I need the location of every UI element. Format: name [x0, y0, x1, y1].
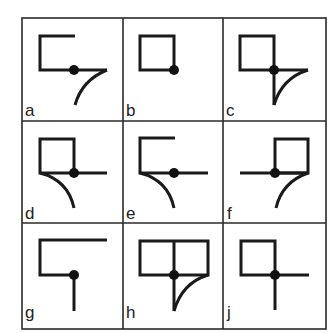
cell-d[interactable]: d [25, 139, 107, 223]
dot-icon [270, 168, 280, 178]
curve-shape [75, 70, 107, 105]
dot-icon [270, 270, 280, 280]
cell-b[interactable]: b [126, 36, 179, 120]
dot-icon [169, 168, 179, 178]
square-shape [241, 241, 275, 275]
dot-icon [269, 65, 279, 75]
cell-label: j [226, 303, 231, 322]
cell-label: g [25, 303, 34, 322]
curve-shape [276, 173, 308, 208]
cell-label: b [126, 101, 135, 120]
dot-icon [169, 65, 179, 75]
cell-c[interactable]: c [226, 36, 308, 120]
cell-a[interactable]: a [25, 36, 107, 120]
bracket-shape [40, 36, 107, 70]
cell-label: d [25, 204, 34, 223]
dot-icon [69, 270, 79, 280]
cell-label: e [126, 204, 135, 223]
cell-j[interactable]: j [226, 241, 309, 322]
cell-label: a [25, 101, 35, 120]
dot-icon [69, 65, 79, 75]
dot-icon [69, 168, 79, 178]
cell-label: h [126, 303, 135, 322]
cell-label: c [226, 101, 235, 120]
square-shape [275, 139, 308, 173]
cell-h[interactable]: h [126, 241, 208, 322]
dot-icon [169, 270, 179, 280]
cell-e[interactable]: e [126, 138, 208, 223]
square-shape [240, 36, 274, 70]
bracket-shape [40, 240, 107, 275]
cell-g[interactable]: g [25, 240, 107, 322]
curve-shape [140, 173, 174, 208]
curve-shape [40, 173, 74, 208]
square-shape [140, 36, 174, 70]
curve-shape [174, 275, 208, 311]
square-shape [40, 139, 74, 173]
curve-shape [274, 70, 308, 105]
puzzle-grid: a b c d e f [0, 0, 334, 333]
cell-label: f [227, 204, 232, 223]
bracket-shape [140, 138, 208, 173]
cell-f[interactable]: f [227, 139, 308, 223]
